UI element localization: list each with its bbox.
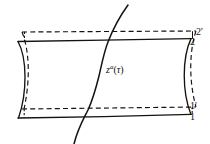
top-solid-edge: [18, 39, 191, 42]
corner-label-2: 2: [190, 37, 195, 47]
figure-container: 2' 2 1' 1 za(τ): [0, 0, 210, 144]
bottom-solid-edge: [18, 114, 191, 118]
worldline-close-paren: ): [120, 64, 123, 75]
corner-label-2-prime: 2': [196, 27, 203, 37]
dashed-bottom-edge: [22, 107, 196, 109]
worldline-label: za(τ): [106, 64, 124, 75]
dashed-top-edge: [22, 31, 196, 32]
corner-label-1-prime: 1': [190, 101, 197, 111]
corner-label-1: 1: [190, 112, 195, 122]
figure-drawing: [0, 0, 210, 144]
